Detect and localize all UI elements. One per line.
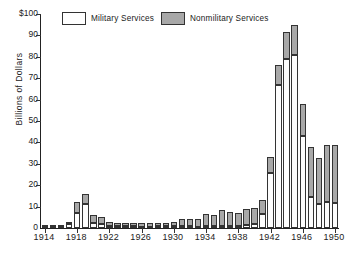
bar-segment-nonmilitary (163, 223, 169, 227)
bar-1915 (50, 14, 56, 228)
bar-1926 (138, 14, 144, 228)
y-tick-mark (36, 121, 41, 122)
bar-segment-nonmilitary (50, 225, 56, 227)
x-tick-label: 1938 (221, 232, 253, 242)
bar-1947 (308, 14, 314, 228)
x-tick-label: 1914 (28, 232, 60, 242)
bar-segment-military (179, 226, 185, 228)
bar-segment-nonmilitary (300, 104, 306, 135)
bar-segment-nonmilitary (138, 223, 144, 227)
bar-1935 (211, 14, 217, 228)
bar-segment-nonmilitary (98, 217, 104, 223)
y-tick-mark (36, 78, 41, 79)
bar-segment-nonmilitary (179, 219, 185, 226)
bar-segment-nonmilitary (171, 222, 177, 226)
bar-1930 (171, 14, 177, 228)
bar-segment-military (332, 203, 338, 228)
bar-segment-nonmilitary (275, 65, 281, 85)
bar-segment-nonmilitary (259, 200, 265, 214)
bar-segment-nonmilitary (243, 209, 249, 225)
bar-segment-nonmilitary (283, 32, 289, 58)
bar-1924 (122, 14, 128, 228)
bar-1919 (82, 14, 88, 228)
bar-segment-military (163, 226, 169, 228)
y-tick-label: 70 (4, 73, 38, 82)
x-tick-label: 1922 (92, 232, 124, 242)
y-tick-mark (36, 14, 41, 15)
bar-segment-nonmilitary (195, 219, 201, 226)
bar-segment-nonmilitary (74, 202, 80, 213)
bar-segment-nonmilitary (332, 145, 338, 203)
bar-1946 (300, 14, 306, 228)
bar-1949 (324, 14, 330, 228)
y-axis-tick-labels: $1009080706050403020100 (0, 0, 38, 253)
bar-segment-nonmilitary (267, 157, 273, 173)
y-tick-label: 20 (4, 180, 38, 189)
federal-expenditures-bar-chart: Billions of Dollars $1009080706050403020… (0, 0, 347, 253)
y-tick-label: 0 (4, 223, 38, 232)
bar-segment-military (324, 202, 330, 228)
bar-segment-nonmilitary (90, 215, 96, 222)
bar-segment-nonmilitary (291, 25, 297, 55)
bar-1941 (259, 14, 265, 228)
x-tick-label: 1946 (286, 232, 318, 242)
bar-1948 (316, 14, 322, 228)
bar-1940 (251, 14, 257, 228)
bar-segment-nonmilitary (203, 214, 209, 226)
bar-1918 (74, 14, 80, 228)
bar-1928 (155, 14, 161, 228)
y-tick-label: $100 (4, 9, 38, 18)
bar-segment-nonmilitary (219, 210, 225, 226)
bar-segment-nonmilitary (82, 194, 88, 205)
x-tick-label: 1918 (60, 232, 92, 242)
bar-segment-military (187, 226, 193, 228)
bar-segment-military (291, 55, 297, 228)
bar-1943 (275, 14, 281, 228)
y-tick-mark (36, 207, 41, 208)
bar-segment-military (275, 85, 281, 228)
bar-1950 (332, 14, 338, 228)
bar-segment-nonmilitary (66, 222, 72, 224)
bar-segment-military (308, 197, 314, 228)
bar-1933 (195, 14, 201, 228)
bar-segment-nonmilitary (324, 145, 330, 202)
bar-1921 (98, 14, 104, 228)
bar-segment-nonmilitary (155, 223, 161, 227)
plot-area (40, 14, 339, 229)
bar-segment-nonmilitary (235, 213, 241, 226)
y-tick-label: 10 (4, 202, 38, 211)
y-tick-mark (36, 164, 41, 165)
bar-1923 (114, 14, 120, 228)
y-tick-mark (36, 185, 41, 186)
bar-1927 (147, 14, 153, 228)
bar-1945 (291, 14, 297, 228)
x-tick-label: 1926 (125, 232, 157, 242)
y-tick-label: 40 (4, 137, 38, 146)
bar-segment-military (251, 224, 257, 228)
bar-segment-nonmilitary (316, 158, 322, 204)
bar-1932 (187, 14, 193, 228)
bar-1934 (203, 14, 209, 228)
bar-1937 (227, 14, 233, 228)
y-tick-label: 80 (4, 52, 38, 61)
bar-segment-military (211, 226, 217, 228)
bar-1938 (235, 14, 241, 228)
bar-segment-nonmilitary (106, 222, 112, 226)
bar-segment-military (98, 224, 104, 228)
bar-segment-nonmilitary (122, 223, 128, 227)
bar-1922 (106, 14, 112, 228)
y-tick-mark (36, 35, 41, 36)
bar-1931 (179, 14, 185, 228)
x-tick-label: 1934 (189, 232, 221, 242)
bar-segment-military (283, 59, 289, 228)
y-tick-mark (36, 57, 41, 58)
bar-segment-military (66, 224, 72, 228)
bar-segment-nonmilitary (211, 215, 217, 227)
bar-1936 (219, 14, 225, 228)
y-tick-label: 30 (4, 159, 38, 168)
bar-segment-military (259, 214, 265, 228)
bar-segment-military (219, 226, 225, 228)
x-tick-label: 1950 (318, 232, 347, 242)
bar-segment-military (316, 204, 322, 228)
bar-1944 (283, 14, 289, 228)
